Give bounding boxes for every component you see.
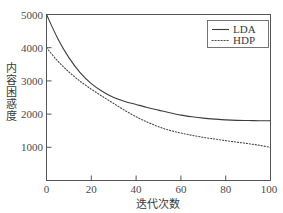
y-tick-label-3000: 3000 [21,75,44,87]
x-axis-title: 迭代次数 [136,197,180,211]
x-axis: 0 20 40 60 80 100 [44,176,278,196]
y-tick-label-1000: 1000 [21,141,44,153]
x-tick-label-100: 100 [261,183,278,195]
legend-label-hdp: HDP [233,34,255,46]
y-tick-label-4000: 4000 [21,42,44,54]
y-axis-title-char-2: 容 [6,73,17,87]
y-axis-title-char-1: 内 [6,61,17,75]
perplexity-line-chart: 5000 4000 3000 2000 1000 0 20 40 60 80 1… [0,0,283,213]
x-tick-label-60: 60 [175,183,187,195]
y-axis-title: 内 容 困 惑 度 [6,61,17,123]
y-axis-title-char-4: 惑 [6,97,17,111]
y-tick-label-5000: 5000 [21,9,44,21]
y-tick-label-2000: 2000 [21,108,44,120]
y-axis-title-char-5: 度 [6,109,17,123]
series-line-hdp [47,48,271,148]
x-tick-label-40: 40 [131,183,143,195]
chart-legend[interactable]: LDA HDP [208,21,269,48]
x-tick-label-0: 0 [44,183,50,195]
chart-figure: 5000 4000 3000 2000 1000 0 20 40 60 80 1… [0,0,283,213]
x-tick-label-20: 20 [86,183,98,195]
x-tick-label-80: 80 [220,183,232,195]
